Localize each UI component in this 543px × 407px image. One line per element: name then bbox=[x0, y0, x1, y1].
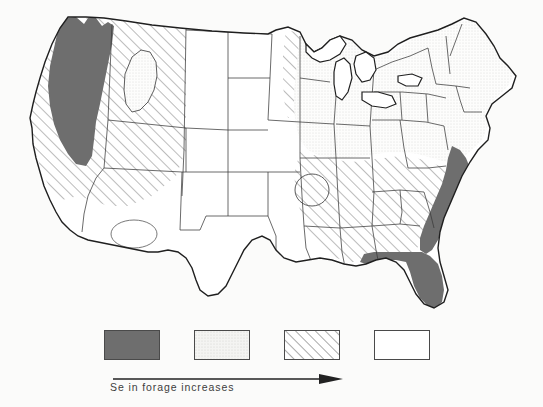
legend-caption: Se in forage increases bbox=[110, 381, 234, 393]
legend-swatch-dark bbox=[104, 330, 160, 360]
selenium-forage-map-figure: Se in forage increases bbox=[0, 0, 543, 407]
region-missouri-ozark-hatch bbox=[295, 174, 329, 206]
legend bbox=[0, 330, 543, 370]
legend-swatch-hatch bbox=[284, 330, 340, 360]
legend-swatch-white bbox=[374, 330, 430, 360]
hatch-fill-icon bbox=[285, 331, 339, 359]
stipple-fill-icon bbox=[195, 331, 249, 359]
legend-swatch-stipple bbox=[194, 330, 250, 360]
region-southwest-inlier-white bbox=[111, 220, 157, 248]
